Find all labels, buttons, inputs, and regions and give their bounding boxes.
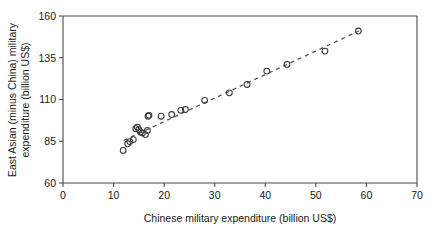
x-tick-label: 10: [108, 189, 120, 201]
data-point: [158, 113, 164, 119]
data-points-group: [120, 28, 361, 153]
x-tick-label: 50: [310, 189, 322, 201]
y-axis-title-line1: East Asian (minus China) military: [6, 22, 18, 177]
x-tick-label: 60: [361, 189, 373, 201]
plot-axes: [63, 16, 417, 183]
scatter-plot: 6085110135160 010203040506070 Chinese mi…: [0, 0, 437, 231]
x-axis-ticks: 010203040506070: [60, 183, 423, 201]
y-tick-label: 160: [38, 10, 56, 22]
x-tick-label: 30: [209, 189, 221, 201]
y-tick-label: 85: [44, 135, 56, 147]
x-tick-label: 70: [411, 189, 423, 201]
y-tick-label: 60: [44, 177, 56, 189]
data-point: [284, 62, 290, 68]
y-tick-label: 110: [39, 93, 56, 105]
x-tick-label: 20: [158, 189, 170, 201]
data-point: [264, 68, 270, 74]
x-tick-label: 40: [259, 189, 271, 201]
y-axis-ticks: 6085110135160: [38, 10, 63, 189]
y-axis-title-line2: expenditure (billion US$): [19, 43, 31, 158]
data-point: [169, 112, 175, 118]
data-point: [120, 148, 126, 154]
x-tick-label: 0: [60, 189, 66, 201]
trendline-group: [124, 31, 359, 140]
chart-figure: 6085110135160 010203040506070 Chinese mi…: [0, 0, 437, 231]
y-tick-label: 135: [38, 52, 56, 64]
x-axis-title: Chinese military expenditure (billion US…: [144, 212, 337, 224]
data-point: [322, 48, 328, 54]
trendline: [124, 31, 359, 140]
